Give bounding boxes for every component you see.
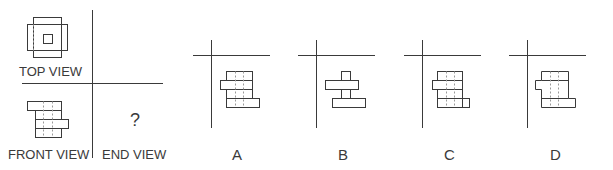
front-view-label: FRONT VIEW	[8, 147, 89, 162]
orthographic-projection-diagram	[0, 0, 613, 170]
top-view-label: TOP VIEW	[19, 64, 82, 79]
option-d-drawing[interactable]	[509, 40, 586, 128]
option-b-label[interactable]: B	[338, 146, 348, 163]
option-d-label[interactable]: D	[550, 146, 561, 163]
option-a-drawing[interactable]	[193, 40, 270, 128]
option-a-label[interactable]: A	[232, 146, 242, 163]
unknown-end-view-marker: ?	[130, 110, 140, 131]
option-c-label[interactable]: C	[444, 146, 455, 163]
end-view-label: END VIEW	[102, 147, 166, 162]
top-view-drawing	[28, 18, 68, 58]
front-view-drawing	[28, 102, 69, 138]
option-b-drawing[interactable]	[298, 40, 375, 128]
option-c-drawing[interactable]	[404, 40, 481, 128]
